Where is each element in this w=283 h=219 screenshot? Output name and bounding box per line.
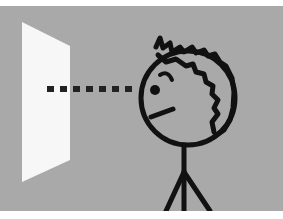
eye	[150, 85, 160, 95]
white-panel	[22, 22, 70, 182]
illustration-canvas	[0, 6, 283, 211]
illustration-scene: Stick figure with curly hair looking at …	[0, 6, 283, 211]
